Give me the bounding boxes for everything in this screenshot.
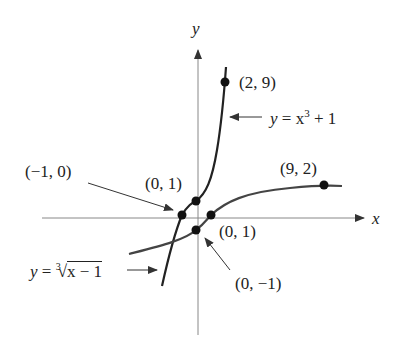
eq-tail: + 1 — [310, 109, 337, 128]
label-2-9: (2, 9) — [239, 74, 276, 91]
eq-y: y — [30, 262, 38, 281]
eq-equals: = — [38, 262, 56, 281]
y-axis-label: y — [192, 20, 200, 37]
label-cube-root-equation: y = 3√x − 1 — [30, 262, 102, 280]
arrow-0-m1 — [205, 238, 230, 270]
label-9-2: (9, 2) — [280, 160, 317, 177]
point-9-2 — [320, 181, 329, 190]
point-m1-0 — [178, 211, 187, 220]
eq-y: y — [270, 109, 278, 128]
label-0-1-top: (0, 1) — [145, 175, 182, 192]
label-m1-0: (−1, 0) — [25, 163, 71, 180]
point-2-9 — [221, 78, 230, 87]
point-1-0 — [207, 211, 216, 220]
eq-radicand: x − 1 — [67, 261, 102, 281]
label-0-1-bottom: (0, 1) — [219, 223, 256, 240]
label-0-m1: (0, −1) — [235, 275, 281, 292]
point-0-m1 — [192, 226, 201, 235]
radical-icon: √ — [58, 262, 67, 281]
eq-body: = x — [278, 109, 305, 128]
curve-cube-root — [129, 186, 342, 254]
x-axis-label: x — [372, 210, 380, 227]
point-0-1 — [192, 197, 201, 206]
label-cubic-equation: y = x3 + 1 — [270, 108, 336, 127]
